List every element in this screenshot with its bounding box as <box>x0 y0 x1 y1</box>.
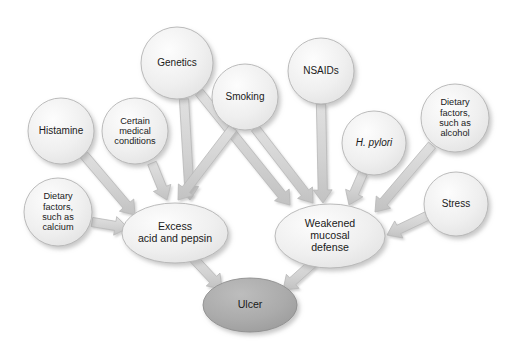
node-shape-smoking[interactable] <box>212 64 278 130</box>
node-shape-dietary_calcium[interactable] <box>24 178 92 246</box>
arrow-certain_medical-to-excess_acid <box>148 161 171 200</box>
node-shape-stress[interactable] <box>424 172 488 236</box>
ulcer-pathophysiology-diagram: HistamineDietary factors, such as calciu… <box>0 0 511 357</box>
node-layer <box>24 27 489 332</box>
node-shape-dietary_alcohol[interactable] <box>421 84 489 152</box>
node-stress[interactable] <box>424 172 488 236</box>
arrow-h_pylori-to-weakened_mucosal <box>346 171 368 205</box>
node-shape-ulcer[interactable] <box>203 278 297 332</box>
node-shape-h_pylori[interactable] <box>342 111 406 175</box>
arrow-shape <box>346 171 368 205</box>
node-dietary_alcohol[interactable] <box>421 84 489 152</box>
arrow-stress-to-weakened_mucosal <box>387 212 429 238</box>
node-excess_acid[interactable] <box>122 203 228 263</box>
arrow-shape <box>313 104 332 203</box>
node-shape-genetics[interactable] <box>141 27 213 99</box>
node-shape-excess_acid[interactable] <box>122 203 228 263</box>
node-shape-weakened_mucosal[interactable] <box>275 204 385 268</box>
node-certain_medical[interactable] <box>102 98 168 164</box>
node-shape-histamine[interactable] <box>28 98 94 164</box>
arrow-shape <box>387 212 429 238</box>
node-smoking[interactable] <box>212 64 278 130</box>
diagram-canvas <box>0 0 511 357</box>
arrow-nsaids-to-weakened_mucosal <box>313 104 332 203</box>
node-nsaids[interactable] <box>288 38 354 104</box>
node-histamine[interactable] <box>28 98 94 164</box>
node-dietary_calcium[interactable] <box>24 178 92 246</box>
node-weakened_mucosal[interactable] <box>275 204 385 268</box>
node-ulcer[interactable] <box>203 278 297 332</box>
node-h_pylori[interactable] <box>342 111 406 175</box>
node-shape-nsaids[interactable] <box>288 38 354 104</box>
arrow-shape <box>148 161 171 200</box>
node-shape-certain_medical[interactable] <box>102 98 168 164</box>
node-genetics[interactable] <box>141 27 213 99</box>
